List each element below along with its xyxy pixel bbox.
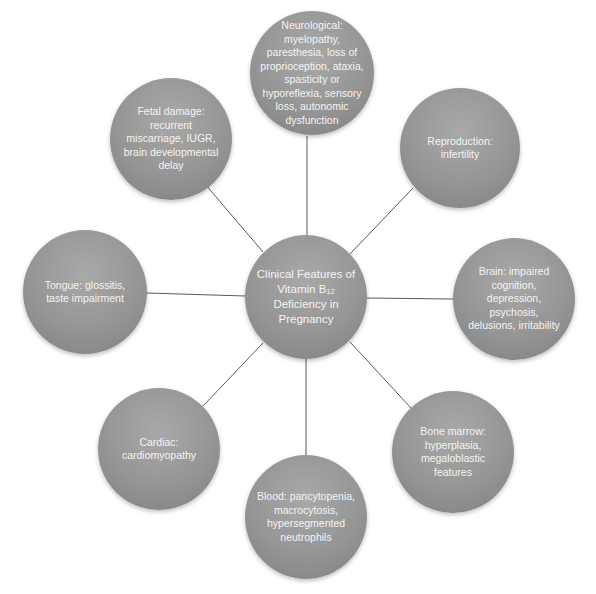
node-neurological-text: Neurological: myelopathy, paresthesia, l…	[256, 19, 368, 127]
connector-cardiac	[203, 343, 263, 406]
node-neurological: Neurological: myelopathy, paresthesia, l…	[250, 11, 374, 135]
node-bone-marrow: Bone marrow: hyperplasia, megaloblastic …	[392, 391, 514, 513]
node-fetal-text: Fetal damage: recurrent miscarriage, IUG…	[121, 105, 221, 173]
node-brain: Brain: impaired cognition, depression, p…	[453, 238, 575, 360]
node-center-title: Clinical Features of Vitamin B12 Deficie…	[245, 235, 367, 359]
node-reproduction-text: Reproduction: infertility	[421, 135, 499, 162]
node-reproduction: Reproduction: infertility	[400, 88, 520, 208]
node-cardiac: Cardiac: cardiomyopathy	[98, 388, 220, 510]
connector-brain	[367, 298, 453, 299]
connector-fetal	[205, 184, 263, 252]
connector-tongue	[147, 293, 245, 296]
connector-bone-marrow	[350, 342, 411, 408]
node-fetal: Fetal damage: recurrent miscarriage, IUG…	[110, 78, 232, 200]
node-tongue: Tongue: glossitis, taste impairment	[23, 230, 147, 354]
node-blood: Blood: pancytopenia, macrocytosis, hyper…	[245, 455, 367, 579]
node-bone-marrow-text: Bone marrow: hyperplasia, megaloblastic …	[413, 425, 493, 479]
node-cardiac-text: Cardiac: cardiomyopathy	[116, 436, 202, 463]
connector-reproduction	[350, 188, 413, 254]
node-blood-text: Blood: pancytopenia, macrocytosis, hyper…	[254, 490, 358, 544]
node-tongue-text: Tongue: glossitis, taste impairment	[38, 279, 132, 306]
node-brain-text: Brain: impaired cognition, depression, p…	[468, 265, 560, 333]
center-title-text: Clinical Features of Vitamin B12 Deficie…	[257, 267, 355, 327]
